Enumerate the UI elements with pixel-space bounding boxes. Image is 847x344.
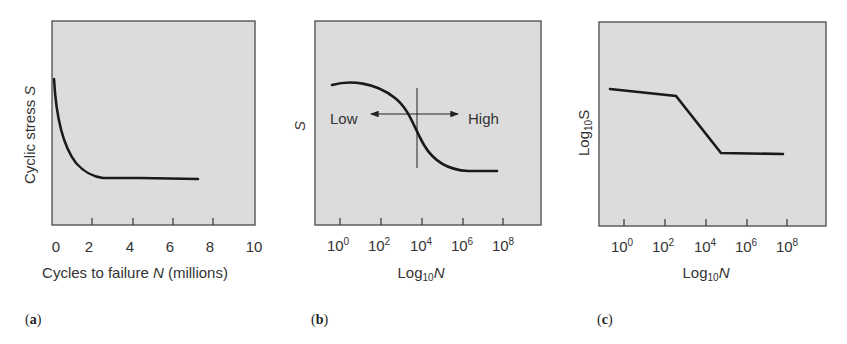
x-tick-c-4: 108	[776, 237, 798, 255]
x-axis-title-c: Log10N	[683, 264, 730, 283]
x-tick-c-3: 106	[735, 237, 757, 255]
plot-c-graphics	[0, 0, 847, 344]
y-axis-title-c: Log10S	[575, 110, 594, 156]
panel-label-c: (c)	[597, 312, 613, 328]
plot-c-area	[599, 22, 826, 226]
x-tick-c-0: 100	[611, 237, 633, 255]
x-tick-c-2: 104	[694, 237, 716, 255]
x-tick-c-1: 102	[652, 237, 674, 255]
